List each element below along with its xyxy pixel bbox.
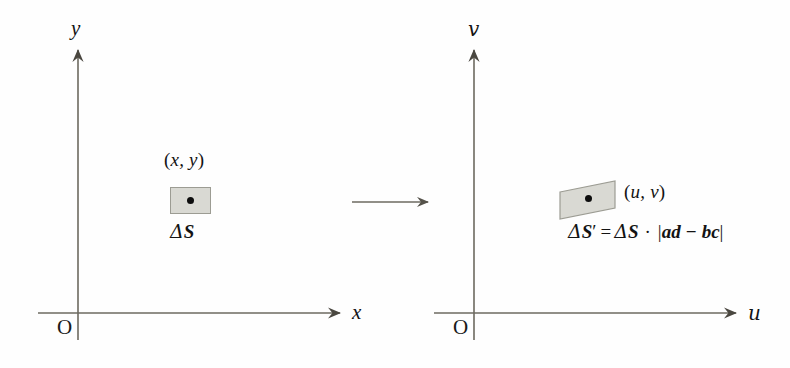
diagram-canvas: y x O (x, y) ΔS v u O (u, v) ΔS′=ΔS·|ad …	[0, 0, 790, 368]
left-point-label: (x, y)	[164, 150, 204, 169]
left-point-coords: x, y	[171, 149, 198, 170]
formula-lhs-delta: Δ	[568, 220, 582, 242]
right-point-paren-close: )	[659, 181, 666, 202]
formula-determinant: ad − bc	[662, 221, 720, 242]
left-point-paren-close: )	[198, 149, 205, 170]
right-origin-label: O	[453, 317, 468, 338]
area-scaling-formula: ΔS′=ΔS·|ad − bc|	[568, 222, 723, 241]
formula-dot-operator: ·	[645, 221, 651, 242]
source-area-symbol: S	[184, 221, 195, 242]
formula-equals: =	[600, 221, 611, 242]
left-y-axis-label: y	[71, 18, 80, 39]
right-point-coords: u, v	[631, 181, 659, 202]
formula-abs-close: |	[720, 221, 724, 242]
right-u-axis-label: u	[748, 303, 761, 323]
right-v-axis-label: v	[468, 19, 479, 39]
formula-lhs-symbol: S	[582, 221, 593, 242]
left-origin-label: O	[57, 317, 72, 338]
source-area-label: ΔS	[170, 222, 194, 241]
source-area-delta: Δ	[170, 220, 184, 242]
formula-rhs-symbol: S	[628, 221, 639, 242]
formula-lhs-prime: ′	[592, 221, 596, 242]
target-point-dot	[585, 195, 592, 202]
left-x-axis-label: x	[352, 302, 361, 323]
right-point-label: (u, v)	[624, 182, 665, 201]
formula-rhs-delta: Δ	[614, 220, 628, 242]
axes-layer	[0, 0, 790, 368]
source-point-dot	[187, 197, 194, 204]
